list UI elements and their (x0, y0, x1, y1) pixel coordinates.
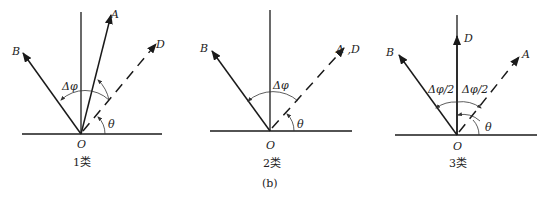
d-arc (458, 114, 480, 121)
dphi-arc-left (436, 102, 457, 108)
label-dphi: Δφ (272, 79, 289, 92)
theta-arc (287, 114, 294, 131)
label-ad: A ,D (335, 43, 360, 56)
label-b: B (11, 45, 20, 58)
theta-arc (473, 120, 479, 135)
label-d: D (155, 38, 165, 51)
panel-caption: 2类 (263, 156, 281, 170)
theta-arc (98, 117, 105, 134)
panel-3: D A B Δφ/2 Δφ/2 θ O 3类 (385, 15, 537, 170)
panel-caption: 3类 (449, 156, 467, 170)
label-d: D (463, 32, 473, 45)
vector-b (23, 53, 81, 134)
vector-b (212, 51, 270, 131)
label-theta: θ (297, 118, 304, 131)
label-dphi: Δφ (61, 80, 78, 93)
label-a: A (521, 48, 530, 61)
label-origin: O (453, 140, 462, 153)
figure-label: (b) (262, 177, 278, 190)
panel-caption: 1类 (73, 155, 91, 169)
a-arc (98, 80, 109, 100)
label-a: A (110, 8, 119, 21)
vector-angle-diagram: A B D Δφ θ O 1类 A ,D B Δφ θ O 2类 (b) D A (0, 0, 543, 205)
label-b: B (385, 46, 394, 59)
label-dphi-left: Δφ/2 (427, 83, 454, 96)
label-origin: O (266, 139, 275, 152)
dphi-arc-right (457, 102, 481, 108)
label-theta: θ (108, 118, 115, 131)
panel-1: A B D Δφ θ O 1类 (11, 8, 165, 169)
label-theta: θ (485, 121, 492, 134)
label-b: B (199, 42, 208, 55)
label-origin: O (77, 138, 86, 151)
label-dphi-right: Δφ/2 (461, 83, 488, 96)
panel-2: A ,D B Δφ θ O 2类 (b) (199, 10, 360, 190)
dphi-arc (248, 92, 298, 101)
vector-d-dashed (83, 44, 156, 131)
